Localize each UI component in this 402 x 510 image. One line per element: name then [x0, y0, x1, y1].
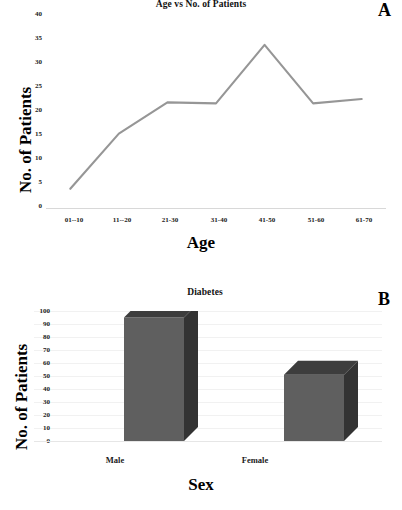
chart-a-xtick-6: 51-60 [292, 216, 340, 224]
chart-b-y-axis-label: No. of Patients [12, 344, 32, 450]
chart-b-ytick-70: 70 [30, 346, 50, 354]
chart-a-ytick-15: 15 [20, 130, 42, 138]
chart-b-ytick-10: 10 [30, 424, 50, 432]
chart-a-x-axis-label: Age [151, 233, 251, 253]
chart-b-xtick-female: Female [215, 455, 295, 465]
chart-a-ytick-40: 40 [20, 10, 42, 18]
panel-letter-b: B [378, 289, 390, 310]
chart-b-ytick-100: 100 [30, 307, 50, 315]
chart-b-ytick-20: 20 [30, 411, 50, 419]
chart-a-xtick-3: 21-30 [146, 216, 194, 224]
chart-a-x-axis-line [46, 208, 386, 209]
chart-b-ytick-90: 90 [30, 320, 50, 328]
chart-b-x-axis-line [34, 441, 382, 442]
chart-a-title: Age vs No. of Patients [121, 0, 281, 9]
chart-b-bar-side [344, 361, 358, 441]
chart-b-bar-front [124, 318, 184, 442]
chart-a-line-series [70, 45, 361, 189]
panel-b-bar-chart: Diabetes B No. of Patients 100 90 80 70 … [0, 265, 402, 510]
chart-b-ytick-50: 50 [30, 372, 50, 380]
chart-a-xtick-7: 61-70 [340, 216, 388, 224]
chart-a-ytick-5: 5 [20, 178, 42, 186]
chart-b-bar-front [284, 375, 344, 441]
chart-b-x-axis-label: Sex [151, 475, 251, 495]
chart-a-ytick-10: 10 [20, 154, 42, 162]
chart-a-xtick-5: 41-50 [243, 216, 291, 224]
chart-a-ytick-20: 20 [20, 106, 42, 114]
chart-a-plot-area [46, 16, 386, 208]
chart-a-ytick-35: 35 [20, 34, 42, 42]
chart-b-plot-area [52, 311, 382, 441]
chart-a-ytick-30: 30 [20, 58, 42, 66]
chart-a-ytick-25: 25 [20, 82, 42, 90]
chart-b-ytick-40: 40 [30, 385, 50, 393]
chart-b-ytick-80: 80 [30, 333, 50, 341]
chart-b-ytick-60: 60 [30, 359, 50, 367]
chart-a-xtick-1: 01--10 [50, 216, 98, 224]
chart-b-title: Diabetes [155, 287, 255, 297]
chart-a-ytick-0: 0 [20, 202, 42, 210]
chart-b-xtick-male: Male [80, 455, 150, 465]
chart-b-bar-side [184, 311, 198, 441]
panel-a-line-chart: Age vs No. of Patients A No. of Patients… [0, 0, 402, 265]
chart-a-xtick-2: 11--20 [98, 216, 146, 224]
chart-b-ytick-30: 30 [30, 398, 50, 406]
chart-a-xtick-4: 31-40 [195, 216, 243, 224]
